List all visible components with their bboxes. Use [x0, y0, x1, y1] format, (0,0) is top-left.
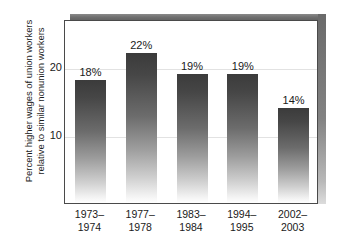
x-tick-label-line-1: 2002–: [263, 208, 323, 221]
bar-value-label: 19%: [213, 61, 273, 72]
y-axis-title: Percent higher wages of union workers re…: [22, 3, 48, 199]
x-tick-label-line-2: 2003: [263, 221, 323, 234]
bar-value-label: 22%: [111, 40, 171, 51]
x-axis-ticks: 1973–19741977–19781983–19841994–19952002…: [64, 208, 318, 240]
bar: [177, 74, 208, 203]
bar-value-label: 18%: [60, 67, 120, 78]
bar-value-label: 14%: [264, 95, 324, 106]
bar: [227, 74, 258, 203]
y-axis-title-line-1: Percent higher wages of union workers: [23, 20, 35, 182]
bar-chart-figure: 18%22%19%19%14% 1020 Percent higher wage…: [0, 0, 353, 249]
bar: [75, 80, 106, 203]
y-axis-title-line-2: relative to similar nonunion workers: [35, 27, 47, 174]
bar: [126, 53, 157, 203]
chart-3d-shadow-right: [318, 14, 326, 204]
plot-area: 18%22%19%19%14%: [64, 20, 318, 204]
x-tick-label: 2002–2003: [263, 208, 323, 234]
bar: [278, 108, 309, 203]
